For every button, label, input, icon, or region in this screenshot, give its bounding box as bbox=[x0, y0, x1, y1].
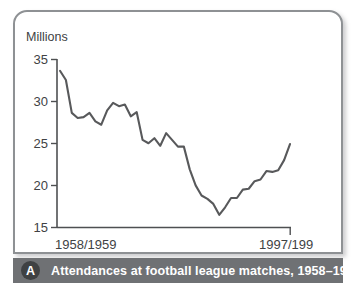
y-tick-label-35: 35 bbox=[34, 52, 48, 67]
y-tick-label-30: 30 bbox=[34, 94, 48, 109]
figure-caption-text: Attendances at football league matches, … bbox=[51, 264, 355, 278]
y-tick-label-20: 20 bbox=[34, 178, 48, 193]
y-axis-title: Millions bbox=[26, 30, 68, 44]
x-tick-label-start: 1958/1959 bbox=[55, 237, 116, 252]
attendance-series-line bbox=[60, 71, 290, 215]
figure-caption-bar: A Attendances at football league matches… bbox=[13, 258, 343, 283]
figure-badge: A bbox=[21, 261, 40, 280]
attendance-line-chart: Millions 35 30 25 20 15 1958/1959 1997/1… bbox=[0, 0, 317, 258]
y-tick-label-15: 15 bbox=[34, 220, 48, 235]
y-tick-label-25: 25 bbox=[34, 136, 48, 151]
x-tick-label-end: 1997/199 bbox=[259, 237, 313, 252]
chart-plot-area: Millions 35 30 25 20 15 1958/1959 1997/1… bbox=[0, 0, 317, 258]
